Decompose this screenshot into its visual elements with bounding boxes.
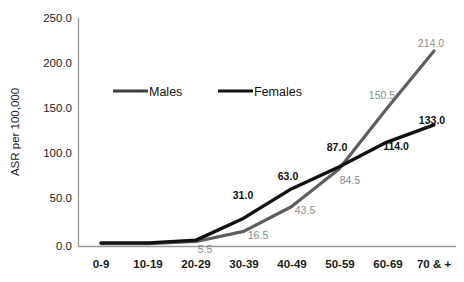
x-tick-label-50-59: 50-59	[325, 258, 354, 270]
point-label-females-50-59: 87.0	[327, 141, 348, 153]
legend: Males Females	[113, 85, 302, 99]
point-label-females-70-plus: 133.0	[419, 114, 445, 126]
x-tick-label-0-9: 0-9	[93, 258, 110, 270]
point-label-males-30-39: 16.5	[248, 229, 269, 241]
legend-label-females: Females	[254, 85, 302, 99]
point-label-females-60-69: 114.0	[383, 140, 409, 152]
line-chart: ASR per 100,000 250.0 200.0 150.0 100.0 …	[0, 0, 464, 282]
chart-container: ASR per 100,000 250.0 200.0 150.0 100.0 …	[0, 0, 464, 282]
x-tick-label-20-29: 20-29	[181, 258, 210, 270]
y-tick-label-200: 200.0	[43, 57, 72, 69]
x-tick-label-30-39: 30-39	[229, 258, 258, 270]
point-label-females-30-39: 31.0	[233, 189, 254, 201]
y-tick-label-150: 150.0	[43, 102, 72, 114]
point-label-males-70-plus: 214.0	[418, 37, 444, 49]
point-label-males-60-69: 150.5	[369, 89, 395, 101]
y-tick-label-250: 250.0	[43, 12, 72, 24]
x-tick-label-10-19: 10-19	[133, 258, 162, 270]
x-tick-label-60-69: 60-69	[373, 258, 402, 270]
point-label-males-20-29: 5.5	[198, 243, 213, 255]
point-label-males-40-49: 43.5	[295, 204, 316, 216]
point-label-females-40-49: 63.0	[278, 170, 299, 182]
x-tick-label-70-plus: 70 & +	[417, 258, 451, 270]
y-axis-title: ASR per 100,000	[9, 88, 21, 176]
y-tick-label-0: 0.0	[56, 240, 72, 252]
legend-label-males: Males	[149, 85, 182, 99]
y-tick-label-100: 100.0	[43, 147, 72, 159]
point-label-males-50-59: 84.5	[340, 174, 361, 186]
x-tick-label-40-49: 40-49	[277, 258, 306, 270]
y-tick-label-50: 50.0	[50, 192, 72, 204]
